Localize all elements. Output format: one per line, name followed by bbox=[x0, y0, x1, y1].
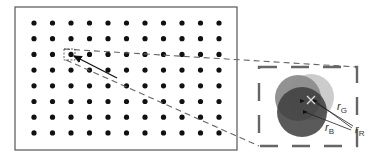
grid-dot bbox=[161, 52, 166, 57]
grid-dot bbox=[216, 83, 221, 88]
grid-dot bbox=[87, 99, 92, 104]
grid-dot bbox=[105, 99, 110, 104]
grid-dot bbox=[87, 83, 92, 88]
dot-grid bbox=[31, 20, 221, 135]
grid-dot bbox=[179, 99, 184, 104]
grid-dot bbox=[142, 115, 147, 120]
grid-dot bbox=[50, 52, 55, 57]
grid-dot bbox=[105, 115, 110, 120]
grid-dot bbox=[198, 36, 203, 41]
grid-dot bbox=[50, 115, 55, 120]
grid-dot bbox=[87, 20, 92, 25]
grid-dot bbox=[198, 68, 203, 73]
grid-dot bbox=[142, 83, 147, 88]
grid-dot bbox=[161, 115, 166, 120]
grid-dot bbox=[124, 36, 129, 41]
grid-dot bbox=[198, 130, 203, 135]
grid-dot bbox=[31, 130, 36, 135]
grid-dot bbox=[50, 130, 55, 135]
grid-dot bbox=[68, 52, 73, 57]
grid-dot bbox=[50, 68, 55, 73]
grid-dot bbox=[142, 99, 147, 104]
grid-dot bbox=[50, 83, 55, 88]
grid-dot bbox=[142, 36, 147, 41]
grid-dot bbox=[216, 20, 221, 25]
grid-dot bbox=[216, 68, 221, 73]
grid-dot bbox=[216, 99, 221, 104]
grid-dot bbox=[68, 20, 73, 25]
grid-dot bbox=[142, 20, 147, 25]
grid-dot bbox=[142, 130, 147, 135]
aberration-diagram: rGrRrB bbox=[0, 0, 383, 159]
grid-dot bbox=[31, 68, 36, 73]
grid-dot bbox=[68, 83, 73, 88]
grid-dot bbox=[179, 68, 184, 73]
grid-dot bbox=[87, 52, 92, 57]
grid-dot bbox=[87, 130, 92, 135]
grid-dot bbox=[87, 115, 92, 120]
grid-dot bbox=[68, 115, 73, 120]
circle-b bbox=[277, 87, 327, 137]
grid-dot bbox=[68, 36, 73, 41]
grid-dot bbox=[179, 36, 184, 41]
grid-dot bbox=[216, 115, 221, 120]
grid-dot bbox=[198, 99, 203, 104]
grid-dot bbox=[179, 83, 184, 88]
grid-dot bbox=[179, 20, 184, 25]
grid-dot bbox=[216, 130, 221, 135]
grid-dot bbox=[50, 36, 55, 41]
grid-dot bbox=[161, 36, 166, 41]
grid-dot bbox=[31, 20, 36, 25]
grid-dot bbox=[124, 68, 129, 73]
grid-dot bbox=[31, 99, 36, 104]
grid-dot bbox=[68, 99, 73, 104]
grid-dot bbox=[105, 36, 110, 41]
grid-dot bbox=[105, 20, 110, 25]
grid-dot bbox=[124, 130, 129, 135]
projection-line-top bbox=[64, 49, 357, 67]
sensor-frame bbox=[15, 7, 237, 150]
label-r-g: rG bbox=[337, 100, 347, 115]
grid-dot bbox=[161, 99, 166, 104]
arrow-icon bbox=[74, 56, 117, 78]
grid-dot bbox=[50, 20, 55, 25]
grid-dot bbox=[198, 20, 203, 25]
grid-dot bbox=[161, 20, 166, 25]
grid-dot bbox=[216, 36, 221, 41]
grid-dot bbox=[124, 99, 129, 104]
grid-dot bbox=[31, 115, 36, 120]
grid-dot bbox=[50, 99, 55, 104]
grid-dot bbox=[124, 20, 129, 25]
grid-dot bbox=[68, 130, 73, 135]
grid-dot bbox=[105, 130, 110, 135]
grid-dot bbox=[198, 52, 203, 57]
grid-dot bbox=[161, 130, 166, 135]
grid-dot bbox=[198, 83, 203, 88]
grid-dot bbox=[161, 83, 166, 88]
grid-dot bbox=[31, 36, 36, 41]
grid-dot bbox=[31, 83, 36, 88]
grid-dot bbox=[31, 52, 36, 57]
grid-dot bbox=[179, 115, 184, 120]
grid-dot bbox=[142, 68, 147, 73]
grid-dot bbox=[216, 52, 221, 57]
grid-dot bbox=[87, 36, 92, 41]
grid-dot bbox=[105, 83, 110, 88]
grid-dot bbox=[179, 130, 184, 135]
grid-dot bbox=[68, 68, 73, 73]
grid-dot bbox=[161, 68, 166, 73]
grid-dot bbox=[124, 115, 129, 120]
grid-dot bbox=[105, 52, 110, 57]
